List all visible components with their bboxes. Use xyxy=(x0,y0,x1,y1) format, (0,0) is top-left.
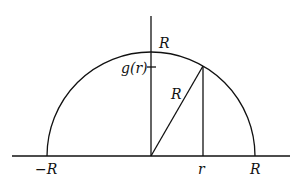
label-neg-R: −R xyxy=(35,161,58,177)
radius-line xyxy=(151,66,203,156)
label-r: r xyxy=(198,161,206,177)
label-g-r: g(r) xyxy=(121,60,148,76)
label-radius-R: R xyxy=(170,86,182,102)
semicircle-diagram: R g(r) R −R r R xyxy=(0,0,300,184)
label-top-R: R xyxy=(158,35,170,51)
label-pos-R: R xyxy=(249,161,261,177)
